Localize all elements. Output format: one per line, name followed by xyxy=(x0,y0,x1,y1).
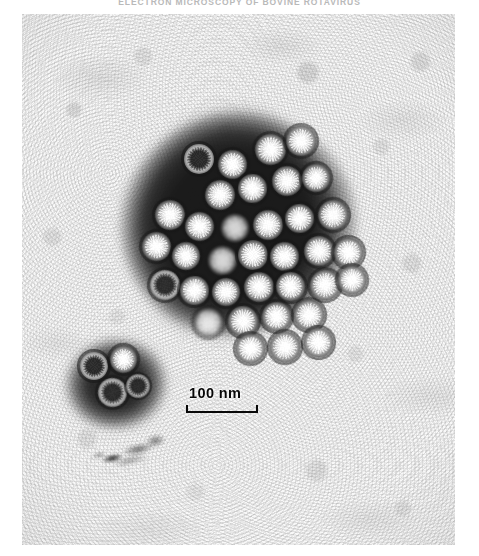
running-head-text: ELECTRON MICROSCOPY OF BOVINE ROTAVIRUS xyxy=(0,0,479,6)
electron-micrograph-plate: 100 nm xyxy=(22,14,455,545)
scale-bar: 100 nm xyxy=(186,386,258,413)
scale-bar-line xyxy=(186,411,258,413)
scale-bar-label: 100 nm xyxy=(189,386,241,401)
running-head: ELECTRON MICROSCOPY OF BOVINE ROTAVIRUS xyxy=(0,0,479,7)
scale-bar-rule xyxy=(186,404,258,413)
scale-bar-tick-right xyxy=(256,405,258,413)
film-vignette xyxy=(22,14,455,545)
